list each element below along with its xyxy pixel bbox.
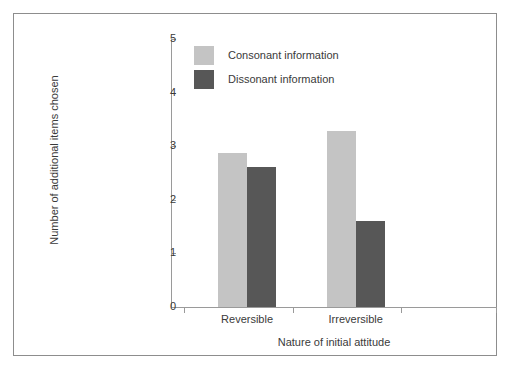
legend-label: Dissonant information [228,73,334,85]
x-axis-title: Nature of initial attitude [171,336,497,348]
y-axis-tick-label-wrap: 3 [134,146,176,147]
x-axis-tick-mark [184,308,185,313]
x-axis-line [171,307,497,308]
x-axis-category-label: Reversible [187,313,307,325]
legend: Consonant informationDissonant informati… [194,43,339,91]
bar [327,131,356,307]
y-axis-tick-label: 5 [148,33,176,44]
y-axis-line [171,39,172,307]
y-axis-tick-label: 2 [148,194,176,205]
legend-item: Dissonant information [194,67,339,91]
y-axis-title: Number of additional items chosen [48,60,60,260]
y-axis-tick-label: 4 [148,87,176,98]
y-axis-tick-label-wrap: 5 [134,39,176,40]
bar [218,153,247,307]
y-axis-tick-label: 3 [148,140,176,151]
bar [356,221,385,307]
x-axis-category-label: Irreversible [296,313,416,325]
x-axis-tick-mark [496,308,497,313]
legend-swatch-icon [194,46,214,65]
y-axis-tick-label-wrap: 0 [134,307,176,308]
y-axis-tick-label-wrap: 4 [134,93,176,94]
y-axis-tick-label: 1 [148,247,176,258]
legend-label: Consonant information [228,49,339,61]
y-axis-tick-label: 0 [148,301,176,312]
legend-swatch-icon [194,70,214,89]
bar [247,167,276,307]
y-axis-tick-label-wrap: 2 [134,200,176,201]
plot-area: 012345 ReversibleIrreversible Number of … [14,14,498,357]
figure-frame: 012345 ReversibleIrreversible Number of … [13,13,497,356]
y-axis-tick-label-wrap: 1 [134,253,176,254]
legend-item: Consonant information [194,43,339,67]
